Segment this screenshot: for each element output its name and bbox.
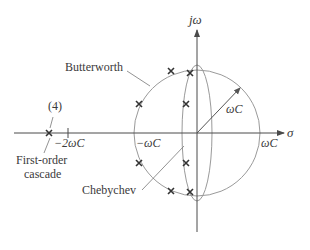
butterworth-poles [136, 68, 174, 194]
multiplicity-leader [50, 117, 53, 128]
sigma-label: σ [287, 125, 294, 140]
butterworth-label: Butterworth [65, 60, 123, 74]
cascade-leader [44, 138, 50, 153]
chebychev-leader [142, 146, 184, 190]
pos-wc-label: ωC [261, 136, 278, 150]
multiplicity-label: (4) [48, 99, 62, 113]
neg-wc-label: −ωC [136, 136, 162, 150]
pole-marker [183, 101, 189, 107]
pole-zero-diagram: jω σ ωC ωC −ωC −2ωC Butterworth Chebyche… [0, 0, 310, 250]
cascade-label-line1: First-order [16, 153, 67, 167]
pole-marker [187, 70, 193, 76]
s-plane-svg: jω σ ωC ωC −ωC −2ωC Butterworth Chebyche… [0, 0, 310, 250]
pole-marker [168, 68, 174, 74]
jomega-label: jω [187, 12, 202, 27]
neg-2wc-label: −2ωC [54, 136, 86, 150]
butterworth-leader [127, 71, 150, 86]
radius-label: ωC [226, 102, 243, 116]
cascade-label-line2: cascade [24, 167, 61, 181]
chebychev-label: Chebychev [82, 183, 136, 197]
